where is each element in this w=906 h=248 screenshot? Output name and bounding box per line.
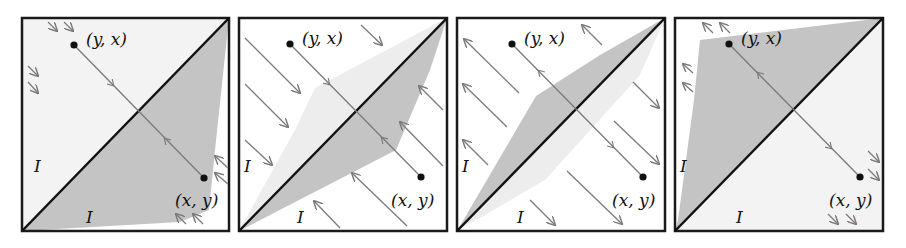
label-point-lower: (x, y)	[829, 190, 872, 210]
figure-four-panels: (y, x) (x, y) I I (y, x) (x, y) I I	[0, 0, 906, 248]
label-region-upper: I	[679, 156, 687, 176]
label-region-lower: I	[296, 207, 304, 227]
label-region-lower: I	[516, 207, 524, 227]
label-point-lower: (x, y)	[175, 190, 218, 210]
point-lower	[639, 173, 646, 180]
label-point-lower: (x, y)	[391, 190, 434, 210]
label-region-lower: I	[85, 207, 93, 227]
label-point-upper: (y, x)	[302, 28, 343, 48]
point-upper	[286, 40, 293, 47]
point-lower	[856, 173, 863, 180]
point-upper	[508, 40, 515, 47]
label-region-lower: I	[735, 207, 743, 227]
point-upper	[70, 41, 77, 48]
label-point-upper: (y, x)	[86, 29, 127, 49]
point-lower	[417, 173, 424, 180]
panel-4: (y, x) (x, y) I I	[675, 18, 883, 231]
point-lower	[200, 174, 207, 181]
label-point-upper: (y, x)	[524, 28, 565, 48]
label-region-upper: I	[243, 156, 251, 176]
label-region-upper: I	[461, 156, 469, 176]
label-region-upper: I	[33, 156, 41, 176]
label-point-lower: (x, y)	[612, 190, 655, 210]
panel-2: (y, x) (x, y) I I	[239, 18, 447, 231]
label-point-upper: (y, x)	[741, 28, 782, 48]
point-upper	[725, 40, 732, 47]
panel-1: (y, x) (x, y) I I	[22, 18, 229, 231]
panel-3: (y, x) (x, y) I I	[457, 18, 665, 231]
